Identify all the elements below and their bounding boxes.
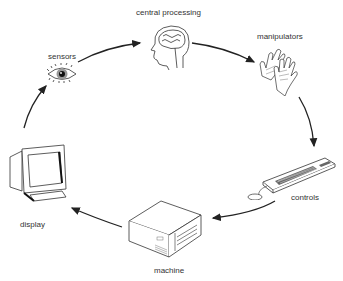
label-display: display <box>20 220 45 229</box>
label-controls: controls <box>291 193 319 202</box>
hands-icon <box>257 46 302 96</box>
label-manipulators: manipulators <box>257 32 303 41</box>
arrow-manipulators-to-controls <box>299 97 314 146</box>
label-machine: machine <box>154 266 184 275</box>
arrow-machine-to-display <box>72 208 122 227</box>
label-central-processing: central processing <box>136 8 201 17</box>
label-sensors: sensors <box>48 52 76 61</box>
arrow-central-to-manipulators <box>192 43 254 62</box>
eye-icon <box>46 63 78 85</box>
head-brain-icon <box>145 22 197 70</box>
monitor-icon <box>6 143 68 205</box>
arrow-sensors-to-central <box>78 43 140 62</box>
arrow-display-to-sensors <box>24 86 46 128</box>
arrow-controls-to-machine <box>213 201 275 218</box>
computer-case-icon <box>125 197 205 259</box>
